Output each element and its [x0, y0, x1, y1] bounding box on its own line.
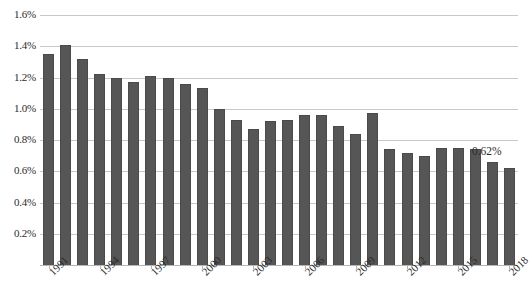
- bar: [231, 120, 242, 265]
- y-axis-tick-label: 1.6%: [2, 9, 36, 20]
- bar: [367, 113, 378, 265]
- bar: [487, 162, 498, 265]
- bar: [197, 88, 208, 265]
- bar: [128, 82, 139, 265]
- bar: [282, 120, 293, 265]
- bar: [436, 148, 447, 265]
- bar: [333, 126, 344, 265]
- y-axis-tick-label: 0.4%: [2, 197, 36, 208]
- bar: [43, 54, 54, 265]
- y-axis-tick-label: 0.2%: [2, 228, 36, 239]
- bar: [145, 76, 156, 265]
- bar: [419, 156, 430, 265]
- y-axis-tick-label: 0.8%: [2, 134, 36, 145]
- bar: [402, 153, 413, 266]
- y-axis-tick-label: 0.6%: [2, 165, 36, 176]
- bar: [299, 115, 310, 265]
- bar: [316, 115, 327, 265]
- bar: [180, 84, 191, 265]
- plot-area: [40, 15, 518, 265]
- bar: [77, 59, 88, 265]
- bar: [60, 45, 71, 265]
- bar: [248, 129, 259, 265]
- x-axis-labels: 1991199419972000200320062009201220152018: [40, 266, 518, 302]
- bar: [94, 74, 105, 265]
- bar: [265, 121, 276, 265]
- value-annotation-0.62: 0.62%: [472, 146, 502, 158]
- bar: [453, 148, 464, 265]
- bar: [111, 78, 122, 266]
- bar: [163, 78, 174, 266]
- bar: [214, 109, 225, 265]
- y-axis-tick-label: 1.2%: [2, 72, 36, 83]
- bar: [470, 149, 481, 265]
- bar: [504, 168, 515, 265]
- bar: [350, 134, 361, 265]
- y-axis-tick-label: 1.0%: [2, 103, 36, 114]
- y-axis-tick-label: 1.4%: [2, 40, 36, 51]
- bar: [384, 149, 395, 265]
